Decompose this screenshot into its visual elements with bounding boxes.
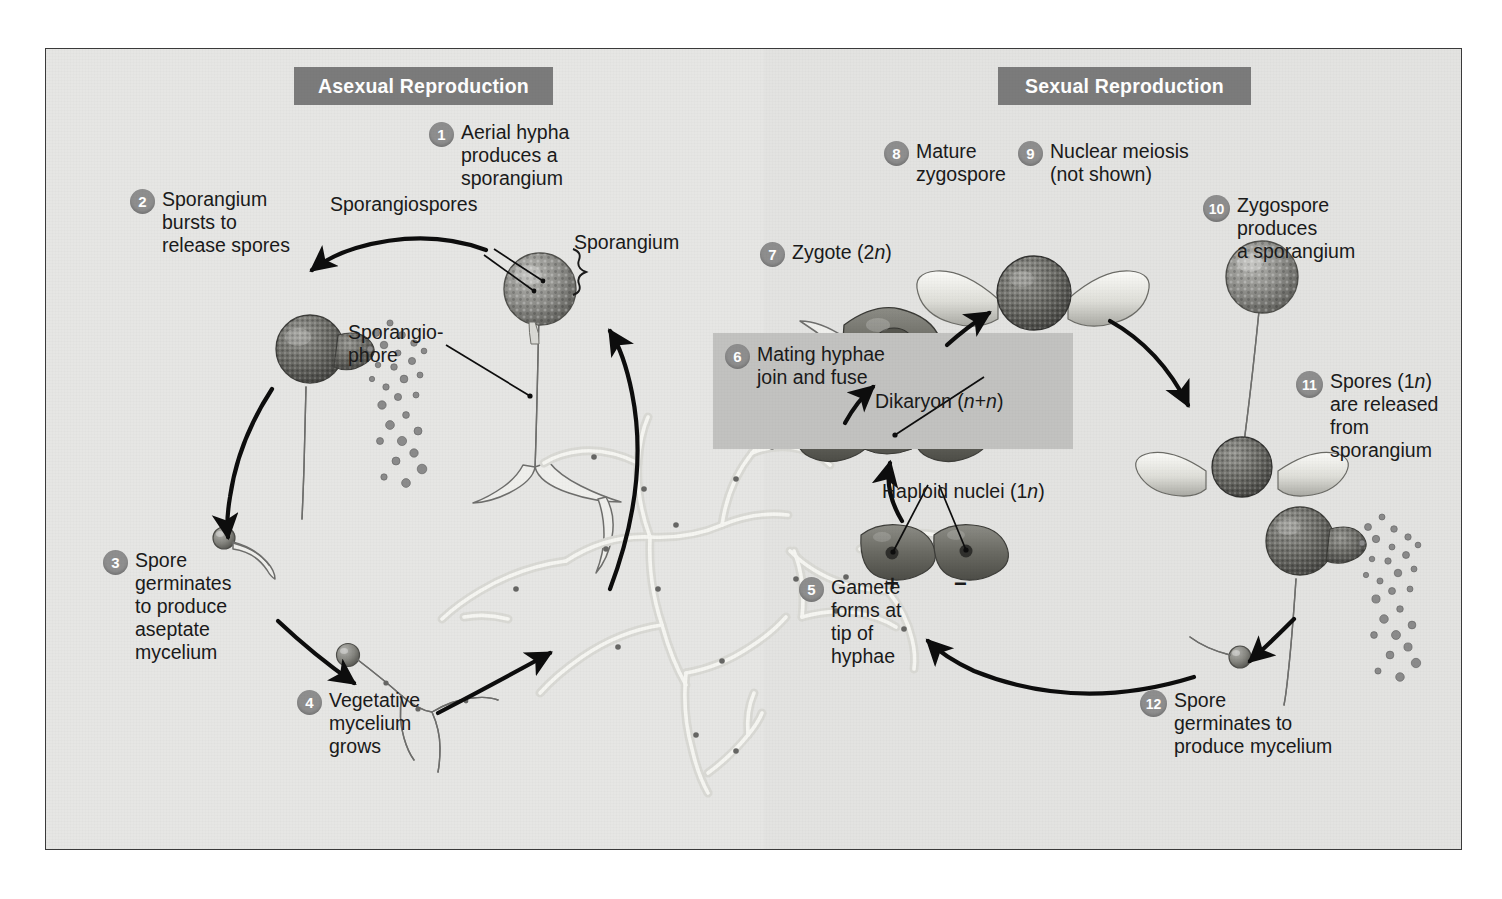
step-11-number: 11 xyxy=(1296,371,1323,398)
step-11[interactable]: 11 Spores (1n) are released from sporang… xyxy=(1296,370,1438,462)
label-minus-mating-type: − xyxy=(954,571,967,597)
step-3-number: 3 xyxy=(103,550,128,575)
arrow-3-to-4 xyxy=(278,621,354,683)
arrow-7-to-8 xyxy=(947,313,989,345)
step-7-text: Zygote (2n) xyxy=(792,241,892,264)
step-4-number: 4 xyxy=(297,690,322,715)
step-7-number: 7 xyxy=(760,242,785,267)
step-11-text: Spores (1n) are released from sporangium xyxy=(1330,370,1438,462)
step-1-text: Aerial hypha produces a sporangium xyxy=(461,121,569,190)
step-1-number: 1 xyxy=(429,122,454,147)
step-8[interactable]: 8 Mature zygospore xyxy=(884,140,1006,186)
step-2[interactable]: 2 Sporangium bursts to release spores xyxy=(130,188,290,257)
leader-sporangiophore xyxy=(446,345,530,396)
arrow-4-to-mycelium xyxy=(438,653,550,713)
label-plus-mating-type: + xyxy=(886,571,899,597)
step-1[interactable]: 1 Aerial hypha produces a sporangium xyxy=(429,121,569,190)
step-12-number: 12 xyxy=(1140,690,1167,717)
step-10[interactable]: 10 Zygospore produces a sporangium xyxy=(1203,194,1355,263)
step-2-text: Sporangium bursts to release spores xyxy=(162,188,290,257)
label-sporangiospores: Sporangiospores xyxy=(330,193,477,216)
leader-sporangiospores-b xyxy=(494,249,543,281)
step-7[interactable]: 7 Zygote (2n) xyxy=(760,241,892,267)
step-6-text: Mating hyphae join and fuse xyxy=(757,343,885,389)
step-9[interactable]: 9 Nuclear meiosis (not shown) xyxy=(1018,140,1189,186)
step-2-number: 2 xyxy=(130,189,155,214)
arrow-mycelium-to-1 xyxy=(610,331,638,589)
arrow-1-to-2 xyxy=(312,238,486,270)
figure-frame: Asexual Reproduction Sexual Reproduction… xyxy=(45,48,1462,850)
step-8-text: Mature zygospore xyxy=(916,140,1006,186)
step-3-text: Spore germinates to produce aseptate myc… xyxy=(135,549,231,664)
arrow-12-to-mycelium xyxy=(928,641,1194,694)
arrow-11-to-12 xyxy=(1250,619,1294,661)
step-10-number: 10 xyxy=(1203,195,1230,222)
step-8-number: 8 xyxy=(884,141,909,166)
step-4-text: Vegetative mycelium grows xyxy=(329,689,420,758)
step-6[interactable]: 6 Mating hyphae join and fuse xyxy=(725,343,885,389)
arrow-6-to-7 xyxy=(845,387,873,423)
step-5-number: 5 xyxy=(799,577,824,602)
arrow-2-to-3 xyxy=(227,389,272,537)
label-dikaryon: Dikaryon (n+n) xyxy=(875,367,1003,413)
leader-sporangiospores-a xyxy=(484,255,534,291)
step-6-number: 6 xyxy=(725,344,750,369)
banner-sexual-reproduction: Sexual Reproduction xyxy=(998,67,1251,105)
label-haploid-nuclei-text: Haploid nuclei (1n) xyxy=(882,480,1045,502)
label-dikaryon-text: Dikaryon (n+n) xyxy=(875,390,1003,412)
step-10-text: Zygospore produces a sporangium xyxy=(1237,194,1355,263)
step-12-text: Spore germinates to produce mycelium xyxy=(1174,689,1332,758)
banner-asexual-reproduction: Asexual Reproduction xyxy=(294,67,553,105)
step-3[interactable]: 3 Spore germinates to produce aseptate m… xyxy=(103,549,231,664)
step-4[interactable]: 4 Vegetative mycelium grows xyxy=(297,689,420,758)
step-12[interactable]: 12 Spore germinates to produce mycelium xyxy=(1140,689,1332,758)
brace-sporangium xyxy=(573,249,586,295)
step-9-text: Nuclear meiosis (not shown) xyxy=(1050,140,1189,186)
step-9-number: 9 xyxy=(1018,141,1043,166)
label-sporangium: Sporangium xyxy=(574,231,679,254)
label-sporangiophore: Sporangio- phore xyxy=(348,321,443,367)
figure-canvas: Asexual Reproduction Sexual Reproduction… xyxy=(0,0,1502,899)
label-haploid-nuclei: Haploid nuclei (1n) xyxy=(882,457,1045,503)
arrow-8-to-10 xyxy=(1110,321,1188,405)
